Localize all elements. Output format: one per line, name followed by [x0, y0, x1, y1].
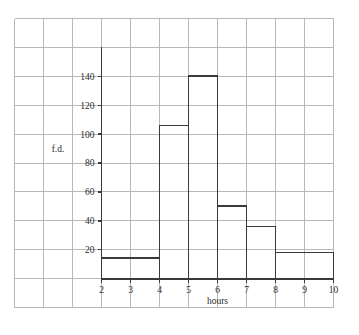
x-tick-label: 4	[157, 285, 162, 295]
x-tick-label: 8	[273, 285, 278, 295]
x-tick-label: 6	[215, 285, 220, 295]
y-tick-label: 140	[80, 72, 95, 82]
y-tick-label: 100	[80, 130, 95, 140]
x-tick-label: 9	[302, 285, 307, 295]
x-tick-label: 5	[186, 285, 191, 295]
x-axis-title: hours	[207, 296, 228, 306]
y-tick-label: 20	[85, 245, 95, 255]
x-tick-label: 10	[329, 285, 339, 295]
histogram-svg: 20406080100120140 2345678910 hours f.d.	[0, 0, 359, 335]
y-tick-label: 120	[80, 101, 95, 111]
histogram-figure: 20406080100120140 2345678910 hours f.d.	[0, 0, 359, 335]
y-axis-title: f.d.	[52, 144, 65, 154]
y-tick-label: 40	[85, 216, 95, 226]
x-tick-label: 2	[99, 285, 104, 295]
y-tick-label: 60	[85, 187, 95, 197]
x-tick-label: 3	[128, 285, 133, 295]
x-tick-label: 7	[244, 285, 249, 295]
y-tick-label: 80	[85, 158, 95, 168]
